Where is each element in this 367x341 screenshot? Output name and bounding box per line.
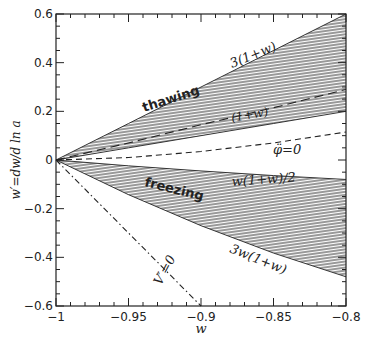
plot-regions: [56, 14, 346, 277]
y-tick-label: 0.6: [34, 7, 53, 21]
x-axis-label: w: [195, 321, 206, 336]
x-tick-label: −0.95: [110, 310, 147, 324]
y-tick-label: 0.2: [34, 104, 53, 118]
y-tick-label: 0.4: [34, 56, 53, 70]
y-tick-label: −0.4: [24, 250, 53, 264]
y-tick-label: −0.2: [24, 202, 53, 216]
x-tick-label: −0.8: [331, 310, 360, 324]
annotation-vprime-zero: V′=0: [150, 253, 178, 288]
chart: −1−0.95−0.9−0.85−0.8 −0.6−0.4−0.200.20.4…: [0, 0, 367, 341]
y-axis-label: w′=dw/d ln a: [9, 120, 23, 199]
y-tick-label: −0.6: [24, 299, 53, 313]
annotation-phidd-zero: φ̈=0: [273, 142, 301, 157]
x-tick-label: −0.85: [255, 310, 292, 324]
y-tick-label: 0: [45, 153, 53, 167]
